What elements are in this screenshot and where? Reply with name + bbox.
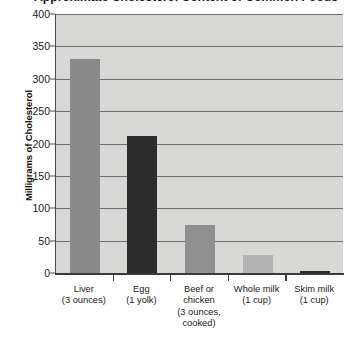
y-tick-label: 300 [24, 73, 50, 85]
bar [185, 225, 215, 273]
chart-title: Approximate Cholesterol Content of Commo… [34, 0, 334, 4]
plot-area [55, 14, 343, 273]
bar [70, 59, 100, 273]
x-tick-mark [228, 274, 229, 281]
x-tick-mark [170, 274, 171, 281]
y-tick-label: 50 [24, 235, 50, 247]
y-tick-label: 0 [24, 267, 50, 279]
x-tick-mark [113, 274, 114, 281]
chart-title-clipped: Approximate Cholesterol Content of Commo… [0, 0, 345, 9]
y-tick-label: 400 [24, 8, 50, 20]
y-axis-ticks: 050100150200250300350400 [0, 0, 50, 340]
x-axis-category-label: Skim milk(1 cup) [277, 284, 345, 307]
x-axis-line [55, 273, 344, 275]
bar [127, 136, 157, 273]
y-tick-label: 100 [24, 202, 50, 214]
bar-series [56, 14, 343, 273]
bar [243, 255, 273, 273]
y-tick-label: 150 [24, 170, 50, 182]
y-tick-label: 250 [24, 105, 50, 117]
y-tick-label: 350 [24, 40, 50, 52]
x-tick-mark [285, 274, 286, 281]
cholesterol-bar-chart: Approximate Cholesterol Content of Commo… [0, 0, 345, 340]
y-tick-label: 200 [24, 138, 50, 150]
x-axis-labels: Liver(3 ounces)Egg(1 yolk)Beef orchicken… [55, 284, 344, 340]
